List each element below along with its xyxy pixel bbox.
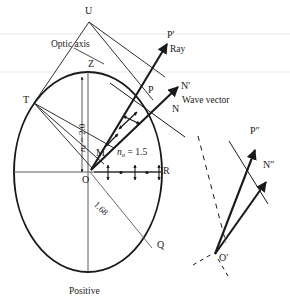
ne-value: = 2.0	[77, 124, 87, 143]
ne-symbol: n	[77, 148, 87, 153]
label-wave-head: N′	[181, 81, 190, 91]
label-point-n: N	[172, 104, 179, 114]
label-origin-o-prime: O′	[219, 253, 228, 263]
label-ne-index: ne = 2.0	[78, 124, 88, 152]
label-origin-o: O	[82, 175, 89, 185]
or-ordinary-axis	[94, 165, 161, 180]
label-point-t: T	[23, 95, 29, 105]
secondary-ray-p-double	[215, 150, 255, 254]
label-apex-u: U	[85, 6, 92, 16]
label-point-r: R	[163, 166, 170, 176]
label-no-index: no = 1.5	[117, 148, 147, 158]
label-wave-text: Wave vector	[182, 96, 230, 106]
secondary-wave-n-double	[215, 182, 266, 254]
label-point-q: Q	[157, 240, 164, 250]
no-subscript: o	[122, 151, 125, 158]
label-second-wave-head: N″	[263, 160, 274, 170]
label-optic-axis: Optic axis	[51, 40, 90, 50]
ne-subscript: e	[80, 145, 87, 148]
no-value: = 1.5	[128, 147, 148, 157]
secondary-wavefront-line	[229, 141, 268, 204]
label-bottom-sign: Positive	[69, 287, 100, 297]
label-second-ray-head: P″	[250, 126, 260, 136]
label-ray-text: Ray	[170, 45, 185, 55]
label-point-m: M	[96, 148, 105, 158]
label-z-axis: Z	[88, 59, 94, 69]
faint-horizontal-rules	[0, 34, 290, 72]
label-point-p: P	[148, 85, 154, 95]
figure-root: U Optic axis Z ne = 2.0 T P N P′ Ray N′ …	[0, 0, 290, 306]
label-ray-head: P′	[167, 30, 175, 40]
